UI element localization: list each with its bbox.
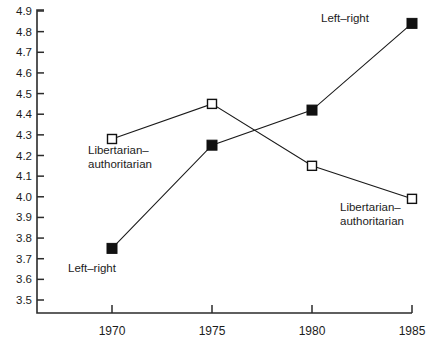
y-tick-label-4.4: 4.4 — [16, 108, 33, 120]
y-tick-label-4.8: 4.8 — [16, 26, 32, 38]
x-tick-label-1970: 1970 — [99, 324, 126, 338]
line-chart: 4.94.84.74.64.54.44.34.24.14.03.93.83.73… — [0, 0, 433, 345]
annot-libertarian-right-line-2: authoritarian — [340, 215, 404, 227]
chart-canvas: 4.94.84.74.64.54.44.34.24.14.03.93.83.73… — [0, 0, 433, 345]
y-tick-label-4.3: 4.3 — [16, 129, 32, 141]
y-tick-label-4.2: 4.2 — [16, 150, 32, 162]
x-axis-labels: 1970197519801985 — [99, 324, 426, 338]
annot-libertarian-right: Libertarian–authoritarian — [340, 201, 404, 227]
y-tick-label-3.6: 3.6 — [16, 273, 32, 285]
marker-left-right-1970 — [107, 243, 117, 253]
marker-left-right-1985 — [407, 18, 417, 28]
marker-left-right-1980 — [307, 105, 317, 115]
marker-left-right-1975 — [207, 140, 217, 150]
x-axis-ticks — [112, 305, 412, 313]
annot-left-right-bottom-line-1: Left–right — [68, 262, 117, 274]
y-tick-label-3.7: 3.7 — [16, 253, 32, 265]
marker-libertarian-authoritarian-1975 — [208, 99, 217, 108]
y-tick-label-4.0: 4.0 — [16, 191, 32, 203]
y-tick-label-4.7: 4.7 — [16, 46, 32, 58]
series-line-libertarian-authoritarian — [112, 104, 412, 199]
y-tick-label-3.5: 3.5 — [16, 294, 32, 306]
annot-left-right-top: Left–right — [321, 12, 370, 24]
annot-libertarian-left-line-1: Libertarian– — [88, 144, 149, 156]
annot-left-right-top-line-1: Left–right — [321, 12, 370, 24]
y-tick-label-4.1: 4.1 — [16, 170, 32, 182]
y-axis-labels: 4.94.84.74.64.54.44.34.24.14.03.93.83.73… — [16, 5, 33, 306]
x-tick-label-1985: 1985 — [399, 324, 426, 338]
series-annotations: Left–rightLibertarian–authoritarianLiber… — [68, 12, 404, 274]
y-tick-label-3.8: 3.8 — [16, 232, 32, 244]
y-tick-label-3.9: 3.9 — [16, 211, 32, 223]
y-tick-label-4.5: 4.5 — [16, 88, 32, 100]
x-tick-label-1975: 1975 — [199, 324, 226, 338]
annot-left-right-bottom: Left–right — [68, 262, 117, 274]
y-tick-label-4.9: 4.9 — [16, 5, 32, 17]
marker-libertarian-authoritarian-1985 — [408, 194, 417, 203]
annot-libertarian-right-line-1: Libertarian– — [340, 201, 401, 213]
marker-libertarian-authoritarian-1970 — [108, 134, 117, 143]
y-axis-ticks — [37, 11, 44, 300]
y-tick-label-4.6: 4.6 — [16, 67, 32, 79]
marker-libertarian-authoritarian-1980 — [308, 161, 317, 170]
x-tick-label-1980: 1980 — [299, 324, 326, 338]
annot-libertarian-left: Libertarian–authoritarian — [88, 144, 152, 170]
annot-libertarian-left-line-2: authoritarian — [88, 158, 152, 170]
